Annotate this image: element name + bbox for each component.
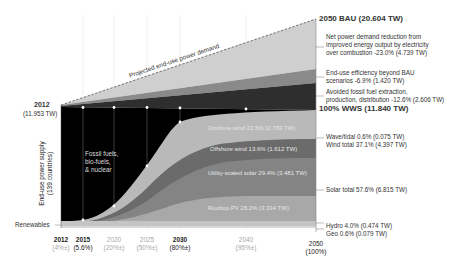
net-demand-label-2: improved energy output by electricity [326,41,429,48]
offshore-wind-label: Offshore wind 13.6% (1.612 TW) [210,146,297,152]
year-2050: 2050(100%) [301,240,331,255]
geo-label: Geo 0.6% (0.079 TW) [326,230,387,237]
start-value-label: (11.953 TW) [23,110,57,117]
efficiency-label-1: End-use efficiency beyond BAU [326,69,414,76]
efficiency-label-2: scenarios -6.9% (1.420 TW) [326,77,404,84]
fossil-label-1: Fossil fuels, [85,150,118,157]
year-2020: 2020(20%±) [99,236,129,251]
fossil-label-3: & nuclear [85,166,112,173]
net-demand-label-1: Net power demand reduction from [326,33,421,40]
year-2015: 2015(5.6%) [68,236,98,251]
start-year-label: 2012 [34,101,50,108]
y-axis-label-line2: (139 countries) [45,134,53,214]
utility-solar-label: Utility-scaled solar 29.4% (3.481 TW) [208,170,307,176]
renewables-label: Renewables [15,221,50,228]
bau-2050-label: 2050 BAU (20.604 TW) [319,15,403,22]
y-axis-label-line1: End-use power supply [38,134,46,214]
wind-total-label: Wind total 37.1% (4.397 TW) [326,141,407,148]
year-2040: 2040(95%±) [231,236,261,251]
onshore-wind-label: Onshore wind 23.5% (2.783 TW) [208,125,295,131]
renewables-base-band [61,226,316,228]
year-2025: 2025(50%±) [132,236,162,251]
avoided-label-2: production, distribution -12.6% (2.606 T… [326,96,444,103]
y-axis-label: End-use power supply (139 countries) [38,134,53,214]
net-demand-label-3: over combustion -23.0% (4.739 TW) [326,49,427,56]
wave-tidal-label: Wave/tidal 0.6% (0.075 TW) [326,133,404,140]
avoided-label-1: Avoided fossil fuel extraction, [326,88,407,95]
hydro-label: Hydro 4.0% (0.474 TW) [326,222,392,229]
wws-2050-label: 100% WWS (11.840 TW) [319,105,408,112]
year-2030: 2030(80%±) [165,236,195,251]
fossil-label-2: bio-fuels, [85,158,111,165]
rooftop-pv-label: Rooftop PV 28.2% (3.334 TW) [208,205,289,211]
solar-total-label: Solar total 57.6% (6.815 TW) [326,186,407,193]
